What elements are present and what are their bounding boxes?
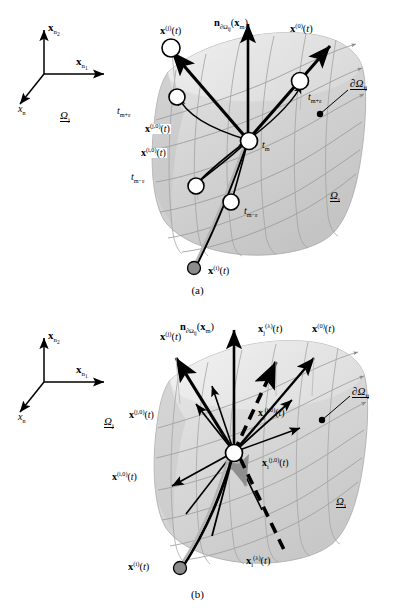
coordinate-axes (20, 338, 104, 412)
marker-x-i (188, 262, 201, 275)
marker-t-m-minus-eps-left (188, 178, 204, 194)
panel-b-caption: (b) (0, 588, 395, 600)
marker-t-m (241, 133, 258, 150)
panel-b-graphics (0, 300, 395, 609)
panel-a: xn2 xn1 xn Ωj Ωi ∂Ωij x(j)(t) n∂Ωij(xm) … (0, 0, 395, 300)
panel-a-caption: (a) (0, 284, 395, 296)
coordinate-axes (20, 30, 104, 104)
marker-x-j (162, 39, 180, 57)
marker-t-m-plus-eps-right (292, 73, 309, 90)
panel-a-graphics (0, 0, 395, 300)
marker-t-m-plus-eps (169, 89, 185, 105)
marker-x-i (174, 562, 187, 575)
marker-t-m-minus-eps-right (223, 194, 239, 210)
marker-center-node (226, 445, 243, 462)
panel-b: xn2 xn1 xn Ωj Ωi ∂Ωij x(j)(t) n∂Ωij(xm) … (0, 300, 395, 600)
